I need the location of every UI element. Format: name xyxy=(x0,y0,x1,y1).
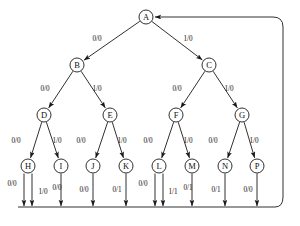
node-l[interactable]: L xyxy=(152,159,166,173)
node-label-p: P xyxy=(255,161,260,171)
edge-c-to-f xyxy=(181,71,205,108)
edge-label-f-l: 0/0 xyxy=(143,137,153,145)
edge-label-f-m: 1/0 xyxy=(183,137,193,145)
terminal-label-h-0: 0/0 xyxy=(7,180,17,188)
node-label-h: H xyxy=(25,161,31,171)
state-transition-diagram: 0/01/00/01/00/01/00/01/00/01/00/01/00/01… xyxy=(0,0,300,226)
edge-label-c-g: 1/0 xyxy=(224,85,234,93)
node-label-n: N xyxy=(222,161,228,171)
node-label-c: C xyxy=(206,60,212,70)
edge-a-to-c xyxy=(152,22,202,60)
edge-label-d-h: 0/0 xyxy=(11,137,21,145)
node-f[interactable]: F xyxy=(169,108,183,122)
node-label-g: G xyxy=(239,110,245,120)
node-label-k: K xyxy=(123,161,130,171)
edge-label-b-d: 0/0 xyxy=(40,85,50,93)
edge-label-a-b: 0/0 xyxy=(92,35,102,43)
node-k[interactable]: K xyxy=(119,159,133,173)
edge-label-a-c: 1/0 xyxy=(183,35,193,43)
edge-b-to-d xyxy=(49,71,73,108)
node-j[interactable]: J xyxy=(86,159,100,173)
node-i[interactable]: I xyxy=(54,159,68,173)
node-n[interactable]: N xyxy=(218,159,232,173)
node-d[interactable]: D xyxy=(37,108,51,122)
node-c[interactable]: C xyxy=(202,58,216,72)
node-h[interactable]: H xyxy=(21,159,35,173)
node-g[interactable]: G xyxy=(235,108,249,122)
edge-d-to-h xyxy=(31,122,42,158)
node-label-i: I xyxy=(60,161,63,171)
node-label-l: L xyxy=(156,161,161,171)
node-label-f: F xyxy=(174,110,179,120)
node-label-b: B xyxy=(74,60,80,70)
terminal-label-p-9: 0/0 xyxy=(243,186,253,194)
node-label-m: M xyxy=(188,161,196,171)
edge-label-d-i: 1/0 xyxy=(52,137,62,145)
terminal-label-l-5: 0/0 xyxy=(138,180,148,188)
node-p[interactable]: P xyxy=(250,159,264,173)
edge-label-e-k: 1/0 xyxy=(117,137,127,145)
node-a[interactable]: A xyxy=(139,10,153,24)
edge-label-b-e: 1/0 xyxy=(92,85,102,93)
node-e[interactable]: E xyxy=(103,108,117,122)
terminal-label-m-7: 0/1 xyxy=(183,184,193,192)
state-diagram-container: 0/01/00/01/00/01/00/01/00/01/00/01/00/01… xyxy=(0,0,300,226)
node-b[interactable]: B xyxy=(70,58,84,72)
edge-label-g-p: 1/0 xyxy=(249,137,259,145)
terminal-label-l-6: 1/1 xyxy=(168,188,178,196)
terminal-label-n-8: 0/1 xyxy=(211,186,221,194)
edge-label-g-n: 0/0 xyxy=(208,137,218,145)
node-label-a: A xyxy=(143,12,150,22)
edge-label-c-f: 0/0 xyxy=(172,85,182,93)
terminal-label-k-4: 0/1 xyxy=(112,186,122,194)
terminal-label-j-3: 0/0 xyxy=(79,186,89,194)
node-label-e: E xyxy=(107,110,112,120)
terminal-label-h-1: 1/0 xyxy=(38,188,48,196)
edge-g-to-n xyxy=(228,122,240,158)
edge-label-e-j: 0/0 xyxy=(76,137,86,145)
node-label-d: D xyxy=(41,110,47,120)
node-m[interactable]: M xyxy=(185,159,199,173)
terminal-label-i-2: 0/0 xyxy=(52,184,62,192)
edge-f-to-l xyxy=(162,122,174,158)
edge-e-to-j xyxy=(96,122,108,158)
